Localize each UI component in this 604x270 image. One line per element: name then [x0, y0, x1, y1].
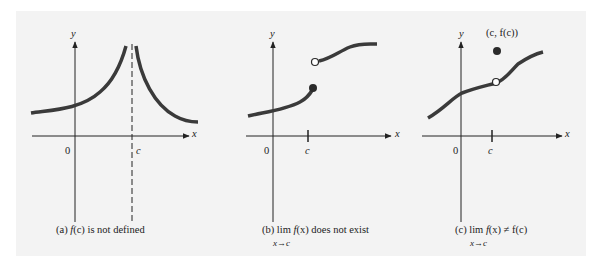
origin-label-c: 0 — [453, 145, 458, 156]
caption-c-prefix: (c) lim — [455, 224, 486, 235]
graph-b — [246, 42, 391, 222]
open-endpoint — [312, 59, 319, 66]
c-label-c: c — [488, 145, 493, 156]
caption-c: (c) lim f(x) ≠ f(c) — [455, 224, 527, 235]
x-axis-label-c: x — [565, 128, 570, 139]
caption-a: (a) f(c) is not defined — [56, 224, 145, 235]
c-label-a: c — [136, 145, 141, 156]
y-axis-label-c: y — [459, 28, 464, 39]
graph-c — [422, 42, 562, 222]
caption-a-rest: is not defined — [85, 224, 145, 235]
caption-c-rest: ≠ f(c) — [501, 224, 527, 235]
curve-right — [319, 44, 377, 61]
filled-endpoint — [309, 84, 317, 92]
curve-right — [136, 46, 198, 122]
curve-left — [248, 89, 313, 116]
origin-label-a: 0 — [65, 145, 70, 156]
origin-label-b: 0 — [264, 145, 269, 156]
filled-point-c-fc — [493, 47, 501, 55]
y-axis-label-a: y — [71, 28, 76, 39]
open-hole — [493, 79, 500, 86]
caption-c-arg: (x) — [489, 224, 501, 235]
point-label-c-fc: (c, f(c)) — [486, 27, 518, 38]
caption-c-subscript: x→c — [470, 238, 487, 248]
caption-a-prefix: (a) — [56, 224, 70, 235]
caption-b: (b) lim f(x) does not exist — [262, 224, 369, 235]
graph-a — [31, 42, 198, 222]
caption-b-rest: does not exist — [309, 224, 369, 235]
c-label-b: c — [305, 145, 310, 156]
curve-left — [31, 46, 126, 113]
x-axis-label-a: x — [192, 128, 197, 139]
y-axis-label-b: y — [270, 28, 275, 39]
caption-b-arg: (x) — [296, 224, 308, 235]
x-axis-label-b: x — [395, 128, 400, 139]
caption-a-arg: (c) — [73, 224, 85, 235]
caption-b-prefix: (b) lim — [262, 224, 294, 235]
caption-b-subscript: x→c — [273, 238, 290, 248]
curve — [428, 52, 543, 118]
